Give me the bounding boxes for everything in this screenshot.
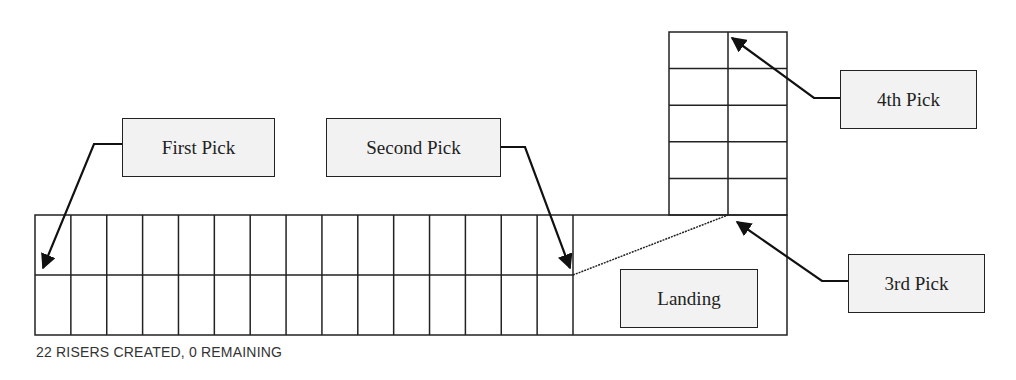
first-pick-arrow-icon (43, 144, 122, 268)
landing-label: Landing (657, 288, 720, 310)
status-text: 22 RISERS CREATED, 0 REMAINING (36, 344, 282, 360)
first-pick-label: First Pick (162, 137, 235, 159)
stair-diagram: First Pick Second Pick 3rd Pick 4th Pick… (0, 0, 1016, 380)
second-pick-label: Second Pick (366, 137, 460, 159)
landing-callout: Landing (620, 269, 758, 328)
third-pick-label: 3rd Pick (885, 273, 949, 295)
second-pick-arrow-icon (501, 147, 570, 268)
fourth-pick-callout: 4th Pick (840, 70, 977, 129)
second-pick-callout: Second Pick (326, 118, 501, 177)
fourth-pick-label: 4th Pick (877, 89, 940, 111)
first-pick-callout: First Pick (122, 118, 275, 177)
walk-line (573, 215, 728, 275)
third-pick-callout: 3rd Pick (848, 254, 985, 313)
stair-layout-drawing (0, 0, 1016, 380)
